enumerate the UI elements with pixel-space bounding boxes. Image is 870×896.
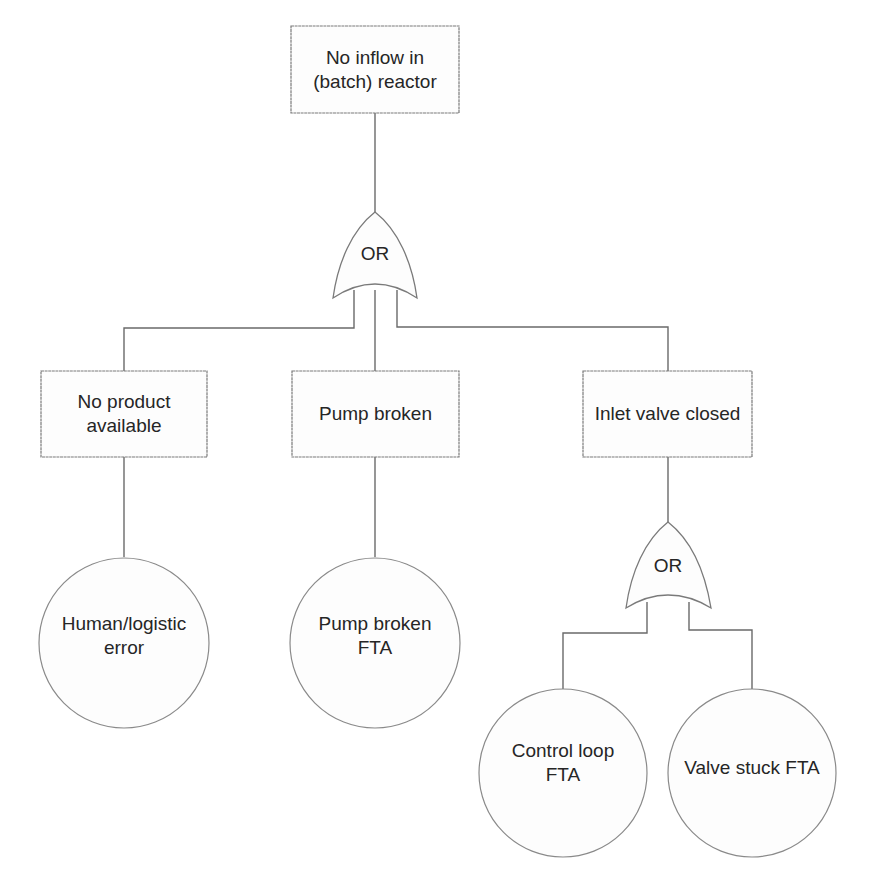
pump-broken-label: Pump broken — [292, 371, 459, 457]
pump-broken-fta-label: Pump broken FTA — [290, 600, 460, 672]
human-logistic-error-label: Human/logistic error — [39, 600, 209, 672]
edge-gate1-to-no-product — [124, 290, 354, 371]
control-loop-fta-label: Control loop FTA — [479, 733, 647, 793]
inlet-valve-closed-label: Inlet valve closed — [583, 371, 752, 457]
or-gate-label: OR — [638, 556, 698, 576]
valve-stuck-fta-label: Valve stuck FTA — [668, 738, 836, 798]
top-event-label: No inflow in (batch) reactor — [291, 26, 459, 113]
edge-gate2-to-control-loop — [563, 602, 647, 689]
edge-gate2-to-valve-stuck — [689, 602, 752, 689]
or-gate-label: OR — [345, 244, 405, 264]
edge-gate1-to-inlet-valve — [397, 290, 668, 371]
no-product-label: No product available — [41, 371, 207, 457]
